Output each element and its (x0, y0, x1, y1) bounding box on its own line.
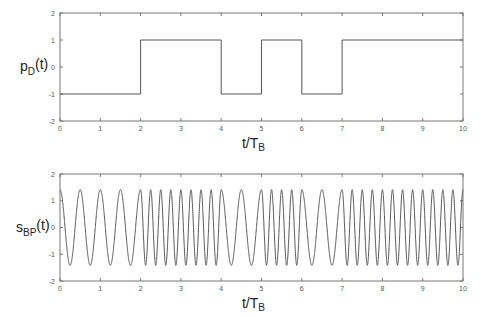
x-tick-label: 8 (380, 125, 384, 132)
x-tick-label: 4 (219, 285, 223, 292)
x-tick-label: 1 (98, 285, 102, 292)
x-tick-label: 5 (260, 285, 264, 292)
signal-trace (60, 190, 463, 266)
x-axis-label: t/TB (242, 295, 265, 313)
y-tick-label: -1 (49, 91, 55, 98)
y-tick-label: 0 (51, 64, 55, 71)
x-tick-label: 5 (260, 125, 264, 132)
y-axis-label: pD(t) (20, 56, 48, 77)
x-tick-label: 8 (380, 285, 384, 292)
x-tick-label: 10 (459, 125, 467, 132)
x-tick-label: 10 (459, 285, 467, 292)
x-tick-label: 0 (58, 285, 62, 292)
x-tick-label: 9 (421, 285, 425, 292)
y-tick-label: -2 (49, 118, 55, 125)
top-plot-pd: 012345678910-2-1012t/TBpD(t) (20, 10, 467, 154)
x-tick-label: 6 (300, 285, 304, 292)
y-tick-label: 1 (51, 37, 55, 44)
x-tick-label: 2 (139, 125, 143, 132)
x-axis-label: t/TB (242, 135, 265, 153)
x-tick-label: 2 (139, 285, 143, 292)
x-tick-label: 6 (300, 125, 304, 132)
x-tick-label: 9 (421, 125, 425, 132)
y-tick-label: 2 (51, 171, 55, 178)
x-tick-label: 3 (179, 125, 183, 132)
figure: 012345678910-2-1012t/TBpD(t) 01234567891… (0, 0, 481, 318)
x-tick-label: 4 (219, 125, 223, 132)
x-tick-label: 3 (179, 285, 183, 292)
y-tick-label: 0 (51, 224, 55, 231)
x-tick-label: 0 (58, 125, 62, 132)
y-axis-label: sBP(t) (16, 217, 50, 238)
signal-trace (60, 40, 463, 94)
x-tick-label: 7 (340, 285, 344, 292)
y-tick-label: -1 (49, 251, 55, 258)
bottom-plot-sbp: 012345678910-2-1012t/TBsBP(t) (16, 171, 467, 314)
x-tick-label: 1 (98, 125, 102, 132)
y-tick-label: 2 (51, 10, 55, 17)
y-tick-label: -2 (49, 278, 55, 285)
x-tick-label: 7 (340, 125, 344, 132)
y-tick-label: 1 (51, 197, 55, 204)
